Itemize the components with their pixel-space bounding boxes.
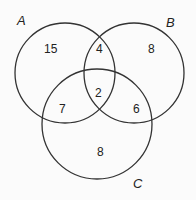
- set-label-a: A: [16, 13, 26, 28]
- region-a-b-c: 2: [95, 86, 102, 100]
- set-label-c: C: [133, 176, 143, 191]
- region-a-c: 7: [59, 102, 66, 116]
- set-label-b: B: [166, 15, 175, 30]
- region-a-b: 4: [96, 42, 103, 56]
- venn-diagram: A B C 15 4 8 7 2 6 8: [0, 0, 196, 200]
- region-b-only: 8: [148, 42, 155, 56]
- region-b-c: 6: [133, 102, 140, 116]
- region-a-only: 15: [44, 42, 58, 56]
- region-c-only: 8: [97, 145, 104, 159]
